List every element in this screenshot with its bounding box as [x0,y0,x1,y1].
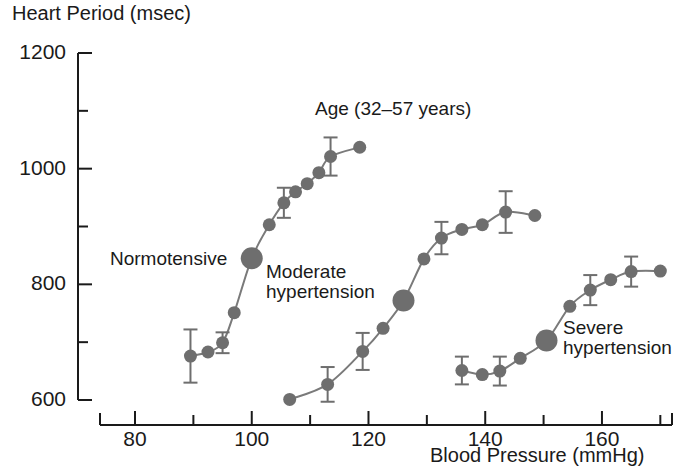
data-point-marker [476,368,489,381]
set-point-marker [241,247,263,269]
y-tick-label: 800 [4,271,66,295]
x-tick-label: 80 [105,427,165,451]
data-point-marker [654,265,667,278]
x-tick-label: 100 [222,427,282,451]
plot-canvas [0,0,690,467]
data-point-marker [263,218,276,231]
data-point-marker [201,345,214,358]
data-point-marker [324,150,337,163]
set-point-marker [393,290,415,312]
data-point-marker [476,218,489,231]
data-point-marker [584,284,597,297]
data-point-marker [563,300,576,313]
data-point-marker [528,209,541,222]
data-point-marker [455,223,468,236]
data-point-marker [493,365,506,378]
data-point-marker [321,378,334,391]
data-point-marker [417,252,430,265]
data-point-marker [353,141,366,154]
data-point-marker [312,166,325,179]
data-point-marker [455,364,468,377]
data-point-marker [216,336,229,349]
data-point-marker [514,352,527,365]
data-point-marker [499,206,512,219]
data-point-marker [277,196,290,209]
series-line [190,147,359,356]
data-point-marker [625,265,638,278]
data-point-marker [435,232,448,245]
set-point-marker [536,329,558,351]
data-point-marker [356,345,369,358]
y-tick-label: 600 [4,387,66,411]
x-tick-label: 120 [338,427,398,451]
data-point-marker [289,185,302,198]
chart-figure: Heart Period (msec) Blood Pressure (mmHg… [0,0,690,467]
data-point-marker [301,177,314,190]
data-point-marker [228,306,241,319]
data-point-marker [184,350,197,363]
data-point-marker [604,273,617,286]
y-tick-label: 1000 [4,156,66,180]
data-series [455,257,667,386]
x-tick-label: 140 [455,427,515,451]
x-tick-label: 160 [572,427,632,451]
data-series [183,137,366,382]
data-point-marker [283,393,296,406]
data-point-marker [377,322,390,335]
y-tick-label: 1200 [4,40,66,64]
